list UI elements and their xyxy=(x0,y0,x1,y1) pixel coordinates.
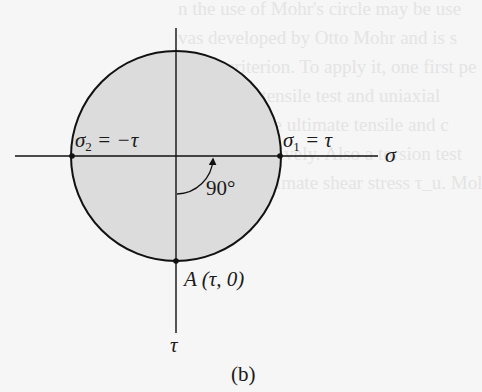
sigma1-value: = τ xyxy=(300,128,332,152)
figure-caption: (b) xyxy=(231,362,256,387)
sigma1-label: σ1 = τ xyxy=(283,128,332,155)
sigma2-value: = −τ xyxy=(92,128,138,152)
angle-label: 90° xyxy=(206,176,235,201)
tau-axis-label: τ xyxy=(170,333,178,358)
point-a xyxy=(173,258,179,264)
point-sigma2 xyxy=(69,153,75,159)
point-a-coords: (τ, 0) xyxy=(196,267,244,291)
sigma2-label: σ2 = −τ xyxy=(75,128,138,155)
point-a-name: A xyxy=(184,267,196,291)
sigma-symbol: σ xyxy=(283,128,293,152)
point-sigma1 xyxy=(277,153,283,159)
sigma-symbol: σ xyxy=(75,128,85,152)
point-a-label: A (τ, 0) xyxy=(184,267,244,292)
sigma-axis-label: σ xyxy=(385,142,396,168)
